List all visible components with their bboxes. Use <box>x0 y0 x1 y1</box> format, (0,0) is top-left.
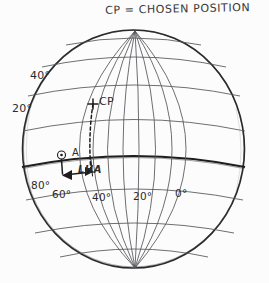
observer-symbol-icon <box>58 151 66 159</box>
cp-marker-label: CP <box>99 96 114 107</box>
meridian-60 <box>108 31 136 268</box>
longitude-label-0: 0° <box>175 188 187 199</box>
lha-label: LHA <box>78 165 102 175</box>
diagram-page: CP = CHOSEN POSITION <box>0 0 269 283</box>
equator-line <box>22 156 245 169</box>
latitude-label-20: 20° <box>12 103 32 114</box>
latitude-line-south-40 <box>35 223 234 233</box>
meridian-east-40 <box>135 31 186 268</box>
observer-label-a: A <box>72 148 79 158</box>
meridian-20 <box>135 31 139 268</box>
meridian-lines <box>80 31 187 268</box>
cp-cross-marker <box>88 99 98 109</box>
latitude-label-40: 40° <box>30 70 50 81</box>
meridian-east-20 <box>135 31 172 268</box>
latitude-line-20 <box>23 120 245 132</box>
latitude-lines <box>23 38 245 257</box>
latitude-line-40 <box>28 85 240 96</box>
meridian-0 <box>135 31 156 268</box>
longitude-label-80: 80° <box>31 180 50 191</box>
observer-drop-line <box>62 160 63 175</box>
longitude-label-20: 20° <box>133 191 152 202</box>
globe-shading-strokes <box>26 108 241 192</box>
latitude-line-south-60 <box>60 249 208 257</box>
globe-outline <box>23 30 245 268</box>
latitude-line-60 <box>42 57 226 67</box>
globe-figure <box>0 0 269 283</box>
longitude-label-60: 60° <box>52 189 71 200</box>
meridian-40 <box>123 31 135 268</box>
longitude-label-40: 40° <box>92 192 111 203</box>
